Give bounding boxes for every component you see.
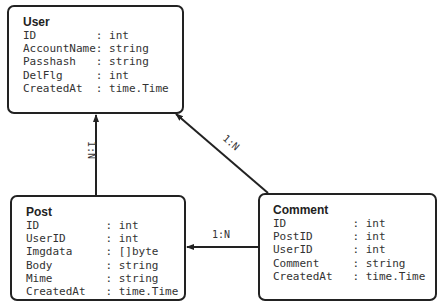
entity-post[interactable]: Post ID:intUserID:intImgdata:[]byteBody:… [10, 195, 186, 301]
field-type: int [119, 232, 139, 245]
field-name: ID [23, 29, 96, 42]
field-row: UserID:int [26, 232, 184, 245]
field-separator: : [105, 272, 112, 285]
field-row: CreatedAt:time.Time [273, 270, 435, 283]
field-name: Mime [26, 272, 105, 285]
field-separator: : [105, 219, 112, 232]
entity-title: User [23, 16, 182, 29]
field-name: Comment [273, 257, 352, 270]
field-row: DelFlg:int [23, 69, 182, 82]
field-row: ID:int [23, 29, 182, 42]
field-name: Imgdata [26, 245, 105, 258]
field-row: Imgdata:[]byte [26, 245, 184, 258]
field-type: []byte [119, 245, 159, 258]
field-list: ID:intAccountName:stringPasshash:stringD… [23, 29, 182, 95]
field-type: string [119, 272, 159, 285]
field-name: ID [26, 219, 105, 232]
field-type: string [109, 42, 149, 55]
edge-comment-to-user [176, 114, 268, 193]
field-row: CreatedAt:time.Time [23, 82, 182, 95]
field-separator: : [96, 29, 103, 42]
field-name: CreatedAt [23, 82, 96, 95]
field-type: int [119, 219, 139, 232]
field-separator: : [96, 69, 103, 82]
field-separator: : [352, 257, 359, 270]
field-type: time.Time [119, 285, 179, 298]
field-row: ID:int [26, 219, 184, 232]
field-separator: : [96, 55, 103, 68]
field-separator: : [96, 42, 103, 55]
entity-user[interactable]: User ID:intAccountName:stringPasshash:st… [7, 5, 184, 114]
field-name: AccountName [23, 42, 96, 55]
field-row: PostID:int [273, 230, 435, 243]
field-type: int [109, 69, 129, 82]
field-name: UserID [26, 232, 105, 245]
field-separator: : [105, 259, 112, 272]
relation-label-post-user: 1:N [86, 141, 97, 159]
relation-label-comment-post: 1:N [212, 229, 230, 240]
field-separator: : [352, 230, 359, 243]
field-name: ID [273, 217, 352, 230]
field-type: time.Time [109, 82, 169, 95]
entity-title: Comment [273, 204, 435, 217]
field-name: PostID [273, 230, 352, 243]
field-separator: : [105, 285, 112, 298]
field-separator: : [105, 232, 112, 245]
field-list: ID:intUserID:intImgdata:[]byteBody:strin… [26, 219, 184, 298]
field-separator: : [105, 245, 112, 258]
field-name: Passhash [23, 55, 96, 68]
field-row: Mime:string [26, 272, 184, 285]
field-type: time.Time [366, 270, 426, 283]
field-name: UserID [273, 243, 352, 256]
field-row: AccountName:string [23, 42, 182, 55]
field-type: int [366, 243, 386, 256]
field-row: CreatedAt:time.Time [26, 285, 184, 298]
entity-comment[interactable]: Comment ID:intPostID:intUserID:intCommen… [258, 193, 437, 301]
field-separator: : [352, 270, 359, 283]
field-row: Comment:string [273, 257, 435, 270]
field-type: int [109, 29, 129, 42]
field-type: int [366, 217, 386, 230]
field-name: CreatedAt [26, 285, 105, 298]
field-type: string [119, 259, 159, 272]
field-name: DelFlg [23, 69, 96, 82]
field-row: ID:int [273, 217, 435, 230]
field-row: Passhash:string [23, 55, 182, 68]
field-separator: : [352, 243, 359, 256]
field-list: ID:intPostID:intUserID:intComment:string… [273, 217, 435, 283]
field-separator: : [352, 217, 359, 230]
field-row: UserID:int [273, 243, 435, 256]
field-name: CreatedAt [273, 270, 352, 283]
field-type: int [366, 230, 386, 243]
field-type: string [366, 257, 406, 270]
field-row: Body:string [26, 259, 184, 272]
entity-title: Post [26, 206, 184, 219]
field-type: string [109, 55, 149, 68]
field-name: Body [26, 259, 105, 272]
field-separator: : [96, 82, 103, 95]
